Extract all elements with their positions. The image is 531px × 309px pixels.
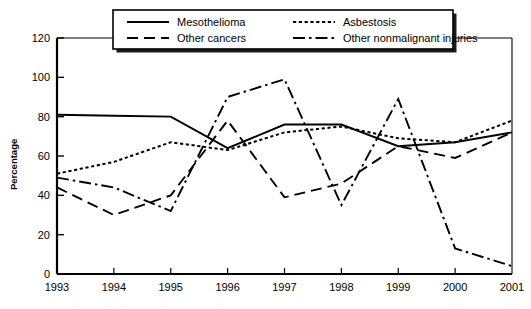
y-tick-label: 60 — [38, 150, 50, 162]
chart-legend: MesotheliomaAsbestosisOther cancersOther… — [113, 10, 478, 53]
x-tick-label: 1999 — [386, 281, 410, 293]
legend-label: Other cancers — [177, 32, 247, 44]
legend-label: Other nonmalignant injuries — [343, 32, 478, 44]
y-tick-label: 120 — [32, 32, 50, 44]
x-tick-label: 1993 — [45, 281, 69, 293]
x-tick-label: 1995 — [159, 281, 183, 293]
percentage-line-chart: Percentage 02040608010012019931994199519… — [0, 0, 531, 309]
x-tick-label: 1998 — [329, 281, 353, 293]
y-tick-label: 40 — [38, 189, 50, 201]
y-tick-label: 20 — [38, 229, 50, 241]
x-tick-label: 2001 — [500, 281, 524, 293]
legend-label: Mesothelioma — [177, 16, 246, 28]
chart-container: Percentage 02040608010012019931994199519… — [0, 0, 531, 309]
y-tick-label: 80 — [38, 111, 50, 123]
x-tick-label: 1997 — [272, 281, 296, 293]
x-tick-label: 1996 — [215, 281, 239, 293]
y-axis-title: Percentage — [8, 139, 19, 190]
x-tick-label: 1994 — [102, 281, 126, 293]
legend-label: Asbestosis — [343, 16, 397, 28]
y-tick-label: 100 — [32, 71, 50, 83]
y-tick-label: 0 — [44, 268, 50, 280]
x-tick-label: 2000 — [443, 281, 467, 293]
